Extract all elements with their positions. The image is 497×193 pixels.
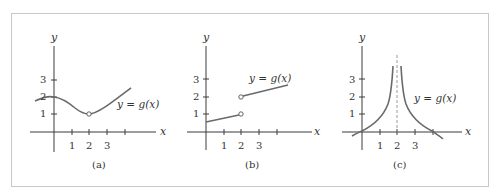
x-tick-label: 1 <box>377 140 383 151</box>
panel-b: y x 1 2 3 1 2 3 y = g(x) (b) <box>187 31 321 170</box>
y-tick-label: 2 <box>40 91 46 102</box>
x-tick-label: 1 <box>69 140 75 151</box>
y-axis-label: y <box>202 31 210 44</box>
caption-a: (a) <box>92 159 106 170</box>
curve-label: y = g(x) <box>248 72 291 84</box>
caption-b: (b) <box>245 159 259 170</box>
y-tick-label: 3 <box>40 74 46 85</box>
x-axis-label: x <box>465 125 472 138</box>
x-tick-label: 3 <box>412 140 418 151</box>
y-tick-label: 1 <box>193 108 199 119</box>
segment-lower <box>206 115 239 122</box>
y-tick-label: 3 <box>349 74 355 85</box>
x-tick-label: 1 <box>221 140 227 151</box>
y-tick-label: 2 <box>193 91 199 102</box>
x-tick-label: 3 <box>104 140 110 151</box>
panel-c: y x 1 2 3 1 2 3 y = g(x) (c) <box>342 31 472 170</box>
open-point <box>87 112 91 116</box>
open-point <box>239 95 243 99</box>
y-tick-label: 1 <box>349 108 355 119</box>
y-tick-label: 2 <box>349 91 355 102</box>
y-tick-label: 1 <box>40 108 46 119</box>
panel-a: y x 1 2 3 1 2 3 y = g(x) (a) <box>30 31 167 170</box>
x-tick-label: 2 <box>86 140 92 151</box>
y-axis-label: y <box>50 31 58 44</box>
curve-label: y = g(x) <box>413 92 456 104</box>
figure-svg: y x 1 2 3 1 2 3 y = g(x) (a) y x 1 2 3 1… <box>0 0 497 193</box>
caption-c: (c) <box>393 159 407 170</box>
segment-upper <box>243 85 288 96</box>
y-tick-label: 3 <box>193 74 199 85</box>
x-axis-label: x <box>160 125 167 138</box>
curve-label: y = g(x) <box>116 98 159 110</box>
y-axis-label: y <box>358 31 366 44</box>
open-point <box>239 112 243 116</box>
curve-left-branch <box>352 66 393 136</box>
x-tick-label: 3 <box>256 140 262 151</box>
x-axis-label: x <box>314 125 321 138</box>
x-tick-label: 2 <box>394 140 400 151</box>
x-tick-label: 2 <box>238 140 244 151</box>
